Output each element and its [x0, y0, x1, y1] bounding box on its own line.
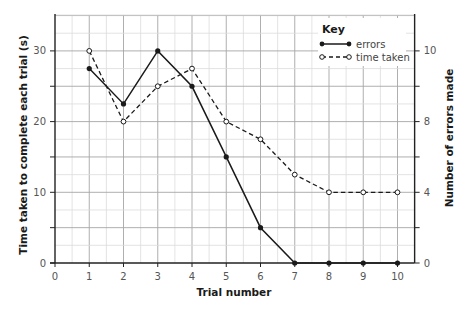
- legend-label-time-taken: time taken: [356, 52, 410, 63]
- filled-circle-marker-icon: [258, 225, 263, 230]
- open-circle-marker-icon: [327, 190, 332, 195]
- filled-circle-marker-icon: [121, 101, 126, 106]
- filled-circle-marker-icon: [395, 260, 400, 265]
- open-circle-marker-icon: [224, 119, 229, 124]
- y2-tick-label: 10: [424, 45, 437, 56]
- y-tick-label: 20: [33, 116, 46, 127]
- open-circle-marker-icon: [190, 66, 195, 71]
- open-circle-marker-icon: [347, 55, 352, 60]
- x-tick-label: 6: [257, 271, 263, 282]
- chart: 012345678910010203004810 Key errors time…: [0, 0, 468, 315]
- filled-circle-marker-icon: [292, 260, 297, 265]
- x-tick-label: 5: [223, 271, 229, 282]
- filled-circle-marker-icon: [361, 260, 366, 265]
- line-chart: 012345678910010203004810 Key errors time…: [0, 0, 468, 315]
- filled-circle-marker-icon: [189, 84, 194, 89]
- open-circle-marker-icon: [258, 137, 263, 142]
- open-circle-marker-icon: [121, 119, 126, 124]
- open-circle-marker-icon: [395, 190, 400, 195]
- y2-tick-label: 0: [424, 258, 430, 269]
- x-tick-label: 7: [292, 271, 298, 282]
- legend-title: Key: [322, 23, 345, 36]
- filled-circle-marker-icon: [224, 154, 229, 159]
- x-axis-title: Trial number: [197, 286, 273, 298]
- open-circle-marker-icon: [155, 84, 160, 89]
- legend-label-errors: errors: [356, 39, 385, 50]
- y2-tick-label: 8: [424, 116, 430, 127]
- y-tick-label: 10: [33, 187, 46, 198]
- filled-circle-marker-icon: [155, 48, 160, 53]
- open-circle-marker-icon: [361, 190, 366, 195]
- x-tick-label: 1: [86, 271, 92, 282]
- x-tick-label: 2: [120, 271, 126, 282]
- open-circle-marker-icon: [87, 49, 92, 54]
- filled-circle-marker-icon: [326, 260, 331, 265]
- x-tick-label: 0: [52, 271, 58, 282]
- x-tick-label: 9: [360, 271, 366, 282]
- y-axis-title: Time taken to complete each trial (s): [17, 35, 29, 254]
- y2-tick-label: 4: [424, 187, 430, 198]
- legend: Key errors time taken: [318, 18, 410, 66]
- x-tick-label: 10: [391, 271, 404, 282]
- filled-circle-marker-icon: [320, 42, 325, 47]
- open-circle-marker-icon: [292, 172, 297, 177]
- y-tick-label: 30: [33, 45, 46, 56]
- x-tick-label: 8: [326, 271, 332, 282]
- x-tick-label: 4: [189, 271, 195, 282]
- open-circle-marker-icon: [320, 55, 325, 60]
- y-tick-label: 0: [40, 258, 46, 269]
- y2-axis-title: Number of errors made: [443, 69, 455, 208]
- filled-circle-marker-icon: [347, 42, 352, 47]
- x-tick-label: 3: [155, 271, 161, 282]
- filled-circle-marker-icon: [87, 66, 92, 71]
